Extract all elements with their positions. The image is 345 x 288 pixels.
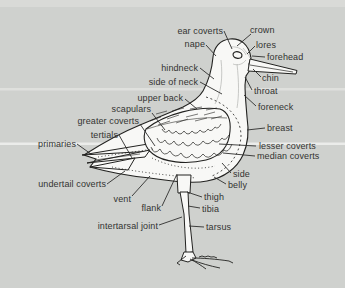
- label-scapulars: scapulars: [112, 104, 152, 114]
- label-hindneck: hindneck: [161, 63, 198, 73]
- label-forehead: forehead: [267, 52, 303, 62]
- label-undertail-coverts: undertail coverts: [38, 179, 106, 189]
- label-chin: chin: [262, 73, 279, 83]
- label-ear-coverts: ear coverts: [177, 26, 223, 36]
- diagram-canvas: ear coverts crown nape lores forehead hi…: [0, 0, 345, 288]
- label-thigh: thigh: [204, 192, 224, 202]
- label-lesser-coverts: lesser coverts: [259, 141, 316, 151]
- label-primaries: primaries: [38, 139, 76, 149]
- bird-topography-diagram: ear coverts crown nape lores forehead hi…: [0, 0, 345, 288]
- background-top-band: [0, 0, 345, 7]
- background-fold-line-1: [0, 88, 345, 91]
- label-tibia: tibia: [202, 204, 219, 214]
- label-crown: crown: [250, 25, 275, 35]
- label-tarsus: tarsus: [206, 222, 232, 232]
- label-vent: vent: [114, 194, 132, 204]
- label-lores: lores: [256, 40, 276, 50]
- label-belly: belly: [228, 180, 247, 190]
- label-side: side: [233, 169, 250, 179]
- label-foreneck: foreneck: [258, 102, 294, 112]
- label-flank: flank: [141, 203, 161, 213]
- label-throat: throat: [254, 86, 278, 96]
- label-upper-back: upper back: [137, 93, 183, 103]
- label-greater-coverts: greater coverts: [77, 116, 139, 126]
- label-tertials: tertials: [91, 130, 119, 140]
- label-breast: breast: [267, 123, 293, 133]
- label-side-of-neck: side of neck: [149, 77, 199, 87]
- label-nape: nape: [185, 39, 205, 49]
- thigh-patch: [177, 175, 191, 193]
- label-intertarsal-joint: intertarsal joint: [98, 221, 159, 231]
- label-median-coverts: median coverts: [257, 151, 320, 161]
